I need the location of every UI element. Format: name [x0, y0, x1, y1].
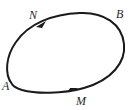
orbit-path	[7, 13, 124, 93]
label-b: B	[116, 8, 123, 20]
orbit-curve	[0, 0, 134, 110]
label-m: M	[76, 95, 86, 107]
label-n: N	[29, 9, 37, 21]
label-a: A	[2, 80, 9, 92]
orbit-diagram: N B A M	[0, 0, 134, 110]
